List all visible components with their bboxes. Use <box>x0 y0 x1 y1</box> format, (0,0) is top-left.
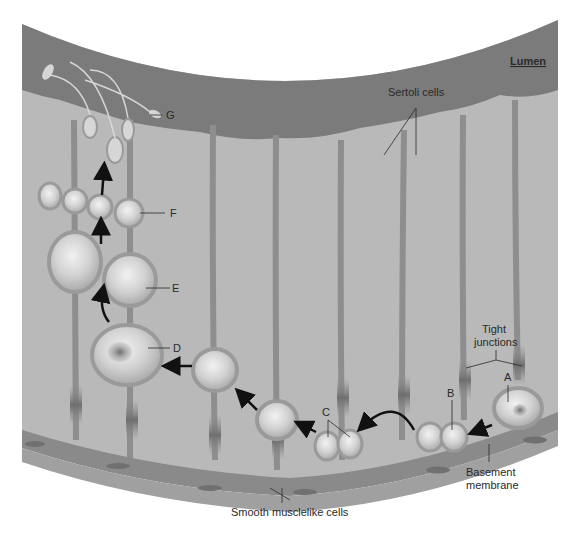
tight-junctions-label-line2: junctions <box>473 336 518 348</box>
cell-stage-d <box>92 325 162 385</box>
basement-membrane-label-line1: Basement <box>466 466 516 478</box>
tight-junctions-label-line1: Tight <box>482 323 506 335</box>
label-d: D <box>173 342 181 354</box>
label-g: G <box>166 109 175 121</box>
spermatogenesis-diagram: Lumen Sertoli cells G F E D C B A Tight … <box>0 0 580 541</box>
basement-membrane-label-line2: membrane <box>466 479 519 491</box>
cell-stage-a <box>494 388 542 428</box>
label-b: B <box>447 387 454 399</box>
sertoli-cells-label: Sertoli cells <box>388 86 445 98</box>
label-c: C <box>322 406 330 418</box>
label-f: F <box>170 207 177 219</box>
label-a: A <box>504 371 512 383</box>
cell-intermediate-1 <box>257 401 297 439</box>
label-e: E <box>172 282 179 294</box>
smooth-musclelike-cells-label: Smooth musclelike cells <box>231 506 349 518</box>
lumen-label: Lumen <box>510 55 546 67</box>
cell-intermediate-2 <box>193 349 237 391</box>
